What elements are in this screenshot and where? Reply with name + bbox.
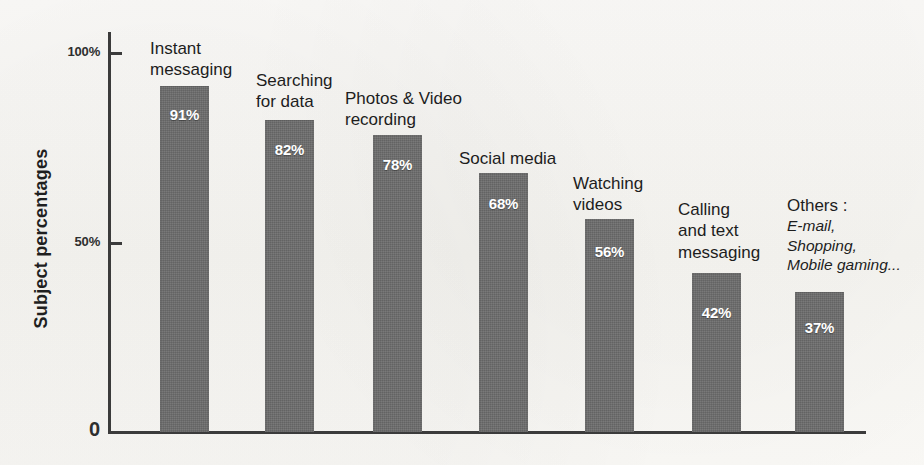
bar-label-line-2: recording bbox=[345, 110, 416, 129]
bar-label-line-1: Instant bbox=[150, 39, 201, 58]
bar-label-watching-videos: Watching videos bbox=[573, 173, 643, 216]
bar-watching-videos[interactable]: 56% bbox=[585, 219, 634, 432]
bar-instant-messaging[interactable]: 91% bbox=[160, 86, 209, 432]
bar-searching-for-data[interactable]: 82% bbox=[265, 120, 314, 432]
bar-label-photos-video-recording: Photos & Video recording bbox=[345, 88, 462, 131]
bar-value-calling-and-text-messaging: 42% bbox=[692, 304, 741, 321]
bar-label-social-media: Social media bbox=[459, 148, 556, 169]
bar-calling-and-text-messaging[interactable]: 42% bbox=[692, 273, 741, 432]
bar-label-calling-and-text-messaging: Calling and text messaging bbox=[678, 199, 760, 263]
bar-label-line-3: Shopping, bbox=[787, 236, 901, 255]
bar-value-watching-videos: 56% bbox=[585, 243, 634, 260]
bar-value-instant-messaging: 91% bbox=[160, 106, 209, 123]
bar-chart-figure: 100% 50% 0 Subject percentages Instant m… bbox=[0, 0, 924, 465]
bar-label-line-2: messaging bbox=[150, 60, 232, 79]
bar-others[interactable]: 37% bbox=[795, 292, 844, 432]
bar-label-line-2: for data bbox=[256, 92, 314, 111]
paper-texture bbox=[0, 0, 924, 465]
bar-label-line-2: and text bbox=[678, 221, 739, 240]
bar-label-line-4: Mobile gaming... bbox=[787, 255, 901, 274]
bar-label-line-3: messaging bbox=[678, 243, 760, 262]
y-axis-title: Subject percentages bbox=[31, 114, 52, 364]
bar-label-line-1: Photos & Video bbox=[345, 89, 462, 108]
bar-value-social-media: 68% bbox=[479, 195, 528, 212]
bar-label-line-1: Others : bbox=[787, 196, 847, 215]
bar-label-others: Others : E-mail, Shopping, Mobile gaming… bbox=[787, 195, 901, 274]
y-axis-line bbox=[108, 32, 111, 434]
y-tick-label-100: 100% bbox=[48, 44, 100, 59]
bar-label-line-1: Searching bbox=[256, 71, 333, 90]
bar-label-line-1: Watching bbox=[573, 174, 643, 193]
bar-photos-video-recording[interactable]: 78% bbox=[373, 135, 422, 432]
y-tick-label-0: 0 bbox=[48, 418, 100, 441]
bar-value-searching-for-data: 82% bbox=[265, 141, 314, 158]
bar-value-others: 37% bbox=[795, 319, 844, 336]
bar-label-line-2: E-mail, bbox=[787, 216, 901, 235]
bar-label-line-2: videos bbox=[573, 195, 622, 214]
y-tick-100 bbox=[111, 52, 122, 55]
bar-label-instant-messaging: Instant messaging bbox=[150, 38, 232, 81]
bar-label-line-1: Calling bbox=[678, 200, 730, 219]
bar-label-searching-for-data: Searching for data bbox=[256, 70, 333, 113]
bar-value-photos-video-recording: 78% bbox=[373, 156, 422, 173]
y-tick-label-50: 50% bbox=[48, 234, 100, 249]
bar-social-media[interactable]: 68% bbox=[479, 173, 528, 432]
y-tick-50 bbox=[111, 242, 122, 245]
bar-label-line-1: Social media bbox=[459, 149, 556, 168]
